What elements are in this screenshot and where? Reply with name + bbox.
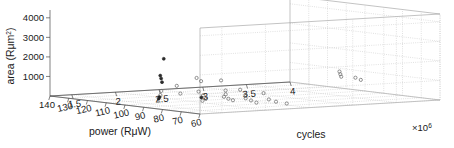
ticklabel-power-5: 90 bbox=[134, 109, 147, 122]
ticklabel-cycles-4: 3.5 bbox=[242, 88, 256, 100]
tick-labels: 1000200030004000140130120110100908070601… bbox=[23, 12, 296, 129]
gridline-area-back-left-3 bbox=[200, 22, 440, 36]
ticklabel-power-6: 80 bbox=[152, 112, 165, 125]
data-point bbox=[262, 92, 265, 95]
ticklabel-cycles-2: 2.5 bbox=[155, 93, 169, 105]
gridline-area-back-left-1 bbox=[200, 61, 440, 75]
ticklabel-cycles-3: 3 bbox=[203, 90, 209, 101]
ticklabel-area-1: 2000 bbox=[23, 51, 44, 62]
gridline-area-back-left-0 bbox=[200, 80, 440, 94]
data-point bbox=[195, 76, 198, 79]
data-point bbox=[285, 102, 288, 105]
gridline-power-floor-6 bbox=[163, 96, 403, 110]
data-point bbox=[359, 78, 362, 81]
axis-title-cycles: cycles bbox=[296, 128, 325, 140]
data-point bbox=[175, 84, 178, 87]
data-point bbox=[255, 101, 258, 104]
ticklabel-area-0: 1000 bbox=[23, 71, 44, 82]
ticklabel-cycles-5: 4 bbox=[290, 85, 296, 96]
data-point bbox=[222, 95, 225, 98]
ticklabel-cycles-1: 2 bbox=[115, 96, 121, 107]
axis-titles: area (Rμm2)power (RμW)cycles×106 bbox=[4, 28, 432, 140]
data-point bbox=[161, 81, 164, 84]
data-point bbox=[219, 79, 222, 82]
ticklabel-power-0: 140 bbox=[39, 99, 55, 110]
data-point bbox=[179, 92, 182, 95]
ticklabel-power-8: 60 bbox=[190, 116, 203, 129]
data-point bbox=[267, 98, 270, 101]
ticklabel-power-3: 110 bbox=[94, 104, 111, 118]
data-point bbox=[274, 100, 277, 103]
wall-top-right bbox=[200, 14, 440, 28]
gridline-area-back-left-2 bbox=[200, 41, 440, 55]
axis-title-area: area (Rμm2) bbox=[4, 28, 16, 85]
axis-multiplier-cycles: ×106 bbox=[412, 122, 432, 134]
data-point bbox=[354, 76, 357, 79]
data-point bbox=[159, 74, 162, 77]
ticklabel-power-4: 100 bbox=[112, 106, 130, 120]
figure-container: 1000200030004000140130120110100908070601… bbox=[0, 0, 454, 148]
data-point bbox=[162, 57, 165, 60]
data-point bbox=[231, 99, 234, 102]
ticklabel-cycles-0: 1.5 bbox=[68, 98, 82, 110]
ticklabel-area-2: 3000 bbox=[23, 32, 44, 43]
scatter-3d-chart: 1000200030004000140130120110100908070601… bbox=[0, 0, 454, 148]
axis-title-power: power (RμW) bbox=[89, 125, 151, 137]
gridline-power-floor-7 bbox=[181, 98, 421, 112]
ticklabel-area-3: 4000 bbox=[23, 12, 44, 23]
data-point bbox=[160, 77, 163, 80]
ticklabel-power-7: 70 bbox=[171, 114, 184, 127]
